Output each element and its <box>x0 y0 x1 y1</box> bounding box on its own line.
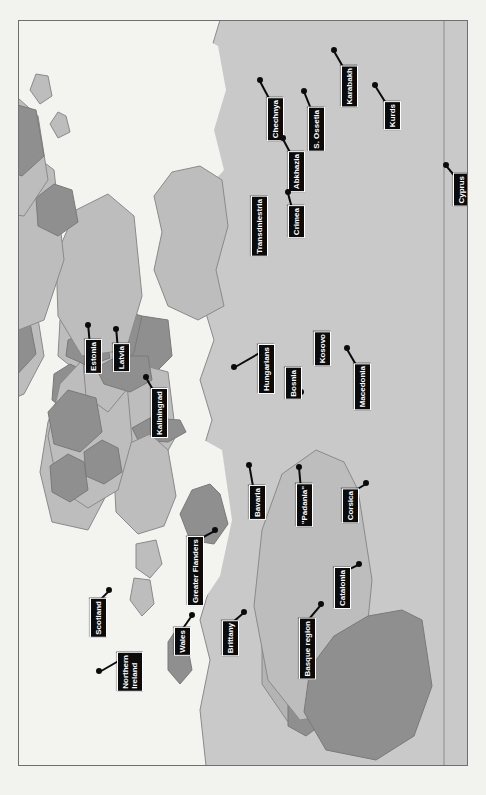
map-label-greater-flanders: Greater Flanders <box>187 536 204 606</box>
map-frame: .sea { fill:#f3f3f0; } .lnd { fill:#c9c9… <box>18 20 468 766</box>
finland-baltics-block <box>154 166 228 320</box>
map-label-scotland: Scotland <box>90 598 107 638</box>
leader-arrow-catalonia <box>356 561 362 567</box>
map-label-corsica: Corsica <box>342 488 359 523</box>
map-page: .sea { fill:#f3f3f0; } .lnd { fill:#c9c9… <box>0 0 486 795</box>
leader-arrow-hungarians <box>231 364 237 370</box>
leader-arrow-abkhazia <box>280 135 286 141</box>
map-label-s-ossetia: S. Ossetia <box>308 107 325 152</box>
map-label-kaliningrad: Kaliningrad <box>151 388 168 438</box>
map-label-kurds: Kurds <box>384 101 401 130</box>
map-label-macedonia: Macedonia <box>354 363 371 410</box>
leader-arrow-scotland <box>106 587 112 593</box>
leader-arrow-brittany <box>241 609 247 615</box>
leader-arrow-crimea <box>285 189 291 195</box>
map-label-padania: "Padania" <box>296 483 313 527</box>
map-label-brittany: Brittany <box>222 620 239 656</box>
map-label-crimea: Crimea <box>288 205 305 238</box>
leader-arrow-corsica <box>363 480 369 486</box>
map-label-catalonia: Catalonia <box>334 567 351 609</box>
leader-arrow-s-ossetia <box>301 88 307 94</box>
map-label-cyprus: Cyprus <box>453 173 468 207</box>
map-canvas: .sea { fill:#f3f3f0; } .lnd { fill:#c9c9… <box>18 20 468 766</box>
map-label-bavaria: Bavaria <box>249 485 266 520</box>
leader-arrow-greater-flanders <box>212 527 218 533</box>
map-label-estonia: Estonia <box>85 339 102 374</box>
map-label-basque-region: Basque region <box>299 618 316 680</box>
leader-arrow-chechnya <box>257 77 263 83</box>
map-label-northern-ireland: Northern Ireland <box>117 652 143 692</box>
map-label-transdniestria: Transdniestria <box>251 196 268 257</box>
map-svg: .sea { fill:#f3f3f0; } .lnd { fill:#c9c9… <box>18 20 468 766</box>
map-label-hungarians: Hungarians <box>258 344 275 394</box>
map-label-kosovo: Kosovo <box>314 331 331 366</box>
map-label-karabakh: Karabakh <box>341 65 358 107</box>
leader-arrow-kaliningrad <box>143 374 149 380</box>
map-label-bosnia: Bosnia <box>285 367 302 400</box>
map-label-latvia: Latvia <box>113 343 130 372</box>
map-label-abkhazia: Abkhazia <box>288 151 305 192</box>
leader-arrow-wales <box>189 612 195 618</box>
leader-arrow-basque-region <box>318 601 324 607</box>
map-label-wales: Wales <box>174 627 191 656</box>
